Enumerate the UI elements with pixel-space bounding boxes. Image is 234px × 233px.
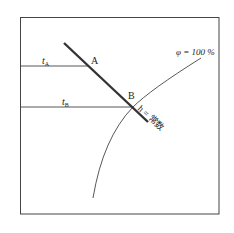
tb-label-sub: B <box>65 102 69 108</box>
psychrometric-diagram <box>0 0 234 233</box>
tb-label: tB <box>62 97 69 108</box>
saturation-curve <box>93 58 201 198</box>
ta-label: tA <box>42 56 49 67</box>
point-a-label: A <box>91 56 98 66</box>
point-b-label: B <box>128 91 135 101</box>
ta-label-sub: A <box>45 61 49 67</box>
phi-curve-label: φ = 100 % <box>176 48 215 57</box>
